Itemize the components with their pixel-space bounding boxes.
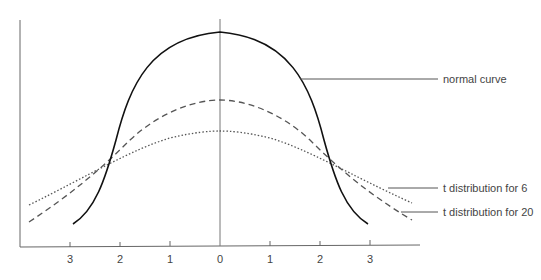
tick-label: 1 (167, 253, 173, 265)
normal-curve-label: normal curve (443, 73, 507, 85)
tick-label: 0 (217, 253, 223, 265)
tick-label: 2 (317, 253, 323, 265)
tick-label: 1 (267, 253, 273, 265)
tick-label: 2 (117, 253, 123, 265)
t20-label: t distribution for 20 (443, 206, 534, 218)
tick-label: 3 (367, 253, 373, 265)
t-vs-normal-chart: 3 2 1 0 1 2 3 normal curve t distributio… (0, 0, 541, 280)
tick-label: 3 (67, 253, 73, 265)
t6-label: t distribution for 6 (443, 182, 527, 194)
